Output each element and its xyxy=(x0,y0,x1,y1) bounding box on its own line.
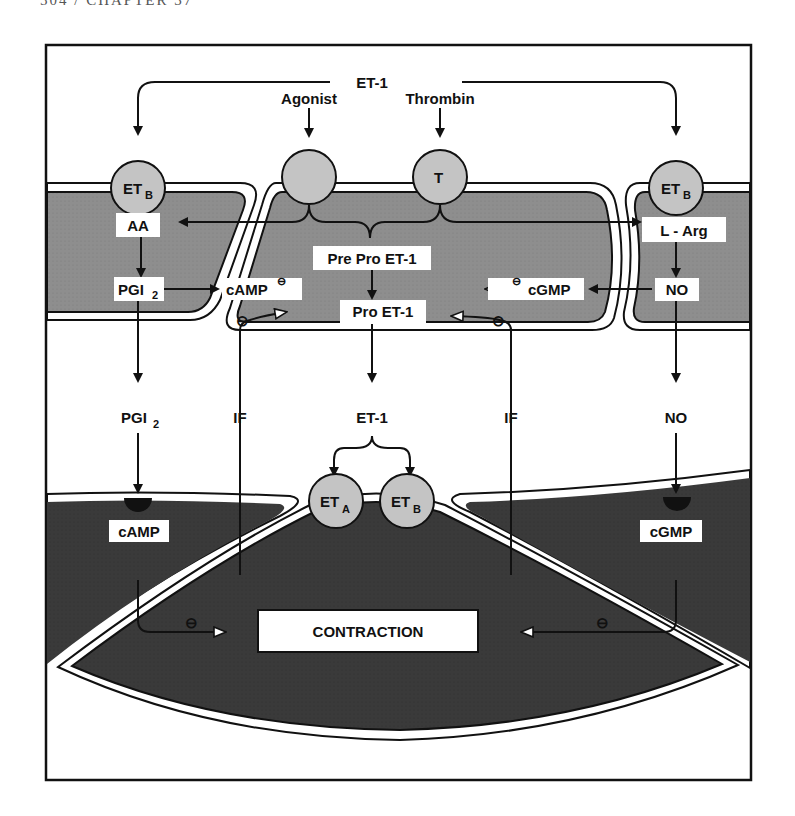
thrombin-label: Thrombin xyxy=(405,90,474,107)
if-right-label: IF xyxy=(504,409,517,426)
agonist-label: Agonist xyxy=(281,90,337,107)
camp-endothelial-label: cAMP xyxy=(226,281,268,298)
agonist-receptor xyxy=(282,150,336,204)
cgmp-muscle-label: cGMP xyxy=(650,523,693,540)
svg-text:B: B xyxy=(413,503,421,515)
muscle-eta-receptor: ET A xyxy=(309,474,363,528)
cgmp-inhibit-symbol: ⊖ xyxy=(512,275,521,287)
svg-text:A: A xyxy=(342,503,350,515)
pgi2-interstitial-label: PGI xyxy=(121,409,147,426)
inhibit-symbol-left: ⊖ xyxy=(236,312,249,329)
cgmp-endothelial-label: cGMP xyxy=(528,281,571,298)
svg-text:ET: ET xyxy=(391,493,410,510)
no-endothelial-label: NO xyxy=(666,281,689,298)
inhibit-symbol-right: ⊖ xyxy=(492,312,505,329)
contraction-label: CONTRACTION xyxy=(313,623,424,640)
pro-et1-label: Pro ET-1 xyxy=(353,303,414,320)
pgi2-endothelial-label: PGI xyxy=(118,281,144,298)
svg-text:ET: ET xyxy=(661,180,680,197)
right-etb-receptor: ET B xyxy=(649,161,703,215)
camp-inhibit-symbol: ⊖ xyxy=(277,275,286,287)
aa-label: AA xyxy=(127,217,149,234)
muscle-etb-receptor: ET B xyxy=(380,474,434,528)
svg-text:2: 2 xyxy=(153,418,159,430)
svg-text:B: B xyxy=(145,189,153,201)
camp-muscle-label: cAMP xyxy=(118,523,160,540)
svg-text:ET: ET xyxy=(320,493,339,510)
inhibit-symbol-muscle-right: ⊖ xyxy=(596,614,609,631)
no-interstitial-label: NO xyxy=(665,409,688,426)
inhibit-symbol-muscle-left: ⊖ xyxy=(185,614,198,631)
svg-text:2: 2 xyxy=(152,289,158,301)
thrombin-receptor: T xyxy=(413,150,467,204)
endothelin-pathway-diagram: ET B T ET B ET A ET B ET-1 Agonist Throm… xyxy=(0,0,795,816)
left-etb-receptor: ET B xyxy=(111,161,165,215)
svg-text:T: T xyxy=(434,169,443,186)
pre-pro-et1-label: Pre Pro ET-1 xyxy=(327,250,416,267)
et1-top-label: ET-1 xyxy=(356,74,388,91)
svg-text:B: B xyxy=(683,189,691,201)
et1-interstitial-label: ET-1 xyxy=(356,409,388,426)
if-left-label: IF xyxy=(233,409,246,426)
svg-text:ET: ET xyxy=(123,180,142,197)
l-arg-label: L - Arg xyxy=(660,222,708,239)
